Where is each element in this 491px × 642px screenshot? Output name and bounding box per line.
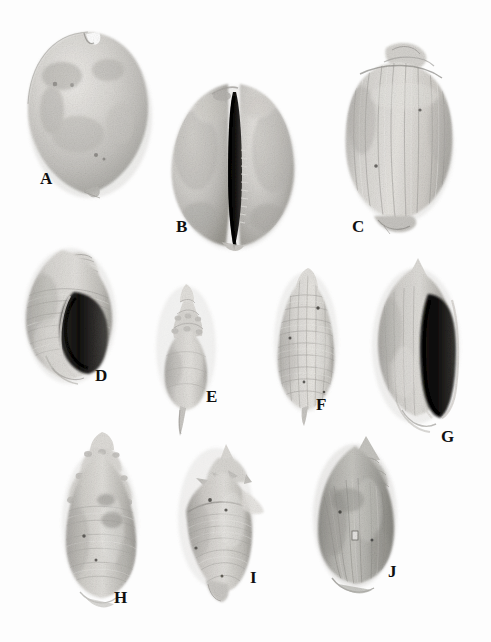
specimen-label-E: E [206, 388, 218, 405]
specimen-label-D: D [95, 367, 108, 384]
specimen-D [24, 248, 116, 384]
specimen-label-C: C [352, 218, 365, 235]
specimen-label-F: F [316, 396, 327, 413]
plate-illustration [0, 0, 491, 642]
figure-plate: A B C D E F G H I J [0, 0, 491, 642]
specimen-label-I: I [250, 569, 257, 586]
specimen-label-G: G [441, 428, 455, 445]
specimen-label-J: J [388, 563, 397, 580]
specimen-label-H: H [114, 589, 128, 606]
specimen-label-A: A [40, 170, 53, 187]
specimen-label-B: B [176, 218, 188, 235]
